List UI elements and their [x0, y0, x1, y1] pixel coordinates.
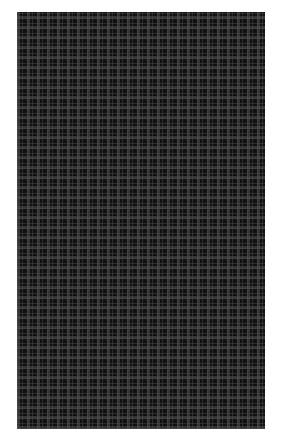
plaid-fabric-swatch: dark plaid fabric swatch: [17, 12, 265, 429]
swatch-description: dark plaid fabric swatch: [17, 12, 18, 13]
